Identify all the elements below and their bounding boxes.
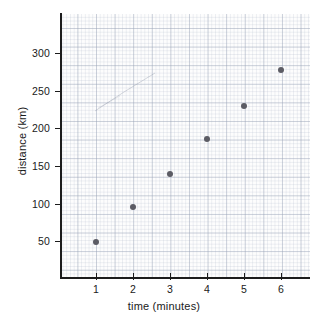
y-tick-mark [55, 241, 62, 242]
y-tick-label: 250 [32, 85, 50, 97]
data-point [130, 204, 136, 210]
y-tick-label: 300 [32, 47, 50, 59]
graph-paper-grid [60, 14, 310, 278]
y-tick-label: 150 [32, 160, 50, 172]
x-tick-mark [133, 273, 134, 280]
y-tick-label: 200 [32, 122, 50, 134]
x-tick-label: 1 [86, 283, 106, 295]
y-tick-mark [55, 128, 62, 129]
x-tick-label: 2 [123, 283, 143, 295]
y-axis-title: distance (km) [16, 71, 28, 211]
y-tick-mark [55, 166, 62, 167]
x-tick-mark [170, 273, 171, 280]
x-axis-title: time (minutes) [0, 300, 328, 312]
x-tick-label: 3 [160, 283, 180, 295]
x-axis-spine [60, 277, 310, 279]
x-tick-mark [207, 273, 208, 280]
y-tick-mark [55, 204, 62, 205]
x-tick-mark [244, 273, 245, 280]
x-tick-label: 6 [271, 283, 291, 295]
data-point [93, 239, 99, 245]
data-point [241, 103, 247, 109]
y-tick-mark [55, 91, 62, 92]
scatter-chart: 50 100 150 200 250 300 1 2 3 4 5 6 time … [0, 0, 328, 323]
data-point [204, 136, 210, 142]
data-point [167, 171, 173, 177]
x-tick-mark [281, 273, 282, 280]
data-point [278, 67, 284, 73]
x-tick-label: 4 [197, 283, 217, 295]
x-tick-mark [96, 273, 97, 280]
y-tick-mark [55, 53, 62, 54]
y-tick-label: 50 [38, 235, 50, 247]
y-tick-label: 100 [32, 198, 50, 210]
x-tick-label: 5 [234, 283, 254, 295]
